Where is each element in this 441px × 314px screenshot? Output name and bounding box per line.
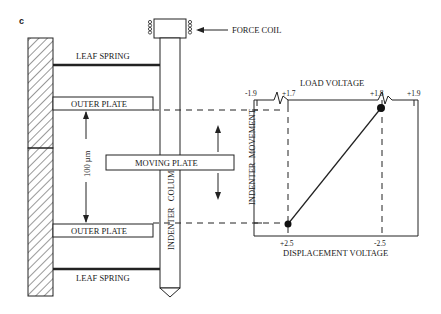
calibration-graph: LOAD VOLTAGE -1.9 +1.7 +1.8 +1.9 +2.5 -2… <box>245 78 421 258</box>
arrow-down-icon <box>83 215 89 223</box>
gap-label: 100 µm <box>82 150 92 177</box>
tick-top-0: -1.9 <box>245 89 257 98</box>
outer-plate-bottom-label: OUTER PLATE <box>71 226 127 236</box>
arrow-up-icon <box>83 111 89 119</box>
movement-up-arrow-icon <box>215 125 221 133</box>
tick-top-2: +1.8 <box>370 89 384 98</box>
tick-top-3: +1.9 <box>407 89 421 98</box>
leaf-spring-top-label: LEAF SPRING <box>76 51 130 61</box>
data-point-bottom <box>285 221 292 228</box>
tick-bottom-1: -2.5 <box>374 239 386 248</box>
indenter-tip <box>160 288 180 297</box>
load-voltage-title: LOAD VOLTAGE <box>300 78 364 88</box>
arrow-left-icon <box>196 27 204 33</box>
movement-label: INDENTER MOVEMENT <box>247 108 257 205</box>
calibration-line <box>288 108 381 224</box>
movement-down-arrow-icon <box>215 192 221 200</box>
column-label: INDENTER COLUMN <box>166 164 176 250</box>
moving-plate-label: MOVING PLATE <box>135 158 198 168</box>
panel-label: c <box>19 16 24 26</box>
outer-plate-top-label: OUTER PLATE <box>71 99 127 109</box>
tick-bottom-0: +2.5 <box>280 239 294 248</box>
data-point-top <box>377 104 385 112</box>
tick-top-1: +1.7 <box>282 89 296 98</box>
force-coil-label: FORCE COIL <box>232 25 281 35</box>
force-transducer-diagram: c FORCE COIL INDENTER COLUMN LEAF SPRING… <box>0 0 441 314</box>
force-coil-body <box>154 19 186 38</box>
fixed-wall <box>28 38 53 148</box>
leaf-spring-bottom-label: LEAF SPRING <box>76 273 130 283</box>
displacement-voltage-title: DISPLACEMENT VOLTAGE <box>283 248 388 258</box>
fixed-wall-lower <box>28 148 53 296</box>
